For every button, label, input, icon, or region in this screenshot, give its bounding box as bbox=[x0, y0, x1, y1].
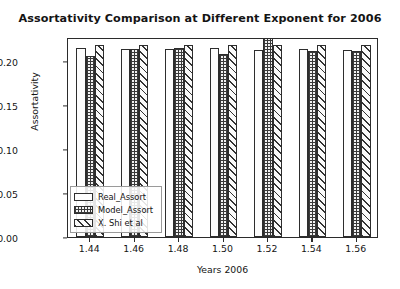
x-tick-label: 1.56 bbox=[332, 243, 380, 254]
x-tick-mark bbox=[311, 238, 312, 242]
legend-swatch-icon bbox=[74, 206, 93, 214]
bar-model-assort-1.54 bbox=[308, 51, 317, 237]
legend-label: X. Shi et al bbox=[98, 218, 143, 228]
bar-real-assort-1.52 bbox=[254, 50, 263, 237]
bar-x-shi-et-al-1.52 bbox=[273, 45, 282, 237]
legend-swatch-icon bbox=[74, 193, 93, 201]
bar-model-assort-1.50 bbox=[219, 54, 228, 237]
x-tick-label: 1.44 bbox=[65, 243, 113, 254]
x-tick-label: 1.48 bbox=[154, 243, 202, 254]
x-tick-mark bbox=[356, 238, 357, 242]
bar-real-assort-1.50 bbox=[210, 48, 219, 237]
x-tick-mark bbox=[267, 238, 268, 242]
legend-item[interactable]: Real_Assort bbox=[74, 190, 157, 203]
legend-label: Model_Assort bbox=[98, 205, 153, 215]
x-tick-label: 1.54 bbox=[287, 243, 335, 254]
y-tick-label: 0.15 bbox=[0, 100, 18, 111]
y-tick-label: 0.00 bbox=[0, 233, 18, 244]
x-axis-label: Years 2006 bbox=[67, 264, 378, 275]
legend-swatch-icon bbox=[74, 219, 93, 227]
y-tick-label: 0.20 bbox=[0, 56, 18, 67]
legend-item[interactable]: Model_Assort bbox=[74, 203, 157, 216]
bar-x-shi-et-al-1.54 bbox=[317, 45, 326, 237]
bar-x-shi-et-al-1.56 bbox=[361, 45, 370, 237]
x-tick-label: 1.52 bbox=[243, 243, 291, 254]
bar-x-shi-et-al-1.50 bbox=[228, 45, 237, 237]
bar-real-assort-1.54 bbox=[299, 49, 308, 237]
legend-item[interactable]: X. Shi et al bbox=[74, 216, 157, 229]
y-tick-label: 0.10 bbox=[0, 144, 18, 155]
chart-title: Assortativity Comparison at Different Ex… bbox=[0, 12, 400, 25]
x-tick-label: 1.46 bbox=[110, 243, 158, 254]
chart-legend: Real_AssortModel_AssortX. Shi et al bbox=[70, 186, 162, 233]
x-tick-mark bbox=[134, 238, 135, 242]
bar-model-assort-1.48 bbox=[174, 48, 183, 237]
bar-real-assort-1.56 bbox=[343, 50, 352, 237]
bar-model-assort-1.52 bbox=[263, 38, 272, 237]
x-tick-label: 1.50 bbox=[199, 243, 247, 254]
bar-model-assort-1.56 bbox=[352, 51, 361, 237]
x-tick-mark bbox=[223, 238, 224, 242]
bar-real-assort-1.48 bbox=[165, 49, 174, 237]
legend-label: Real_Assort bbox=[98, 192, 146, 202]
bar-x-shi-et-al-1.48 bbox=[184, 45, 193, 237]
y-axis-label: Assortativity bbox=[29, 32, 40, 172]
x-tick-mark bbox=[178, 238, 179, 242]
chart-figure: Assortativity Comparison at Different Ex… bbox=[0, 0, 400, 289]
x-tick-mark bbox=[89, 238, 90, 242]
y-tick-label: 0.05 bbox=[0, 188, 18, 199]
